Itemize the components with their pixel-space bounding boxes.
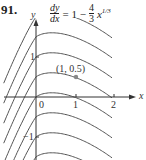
solution-curves [4, 13, 112, 160]
solution-curve [4, 93, 112, 160]
x-axis-label: x [139, 90, 143, 101]
x-tick-label-1: 1 [73, 99, 78, 110]
x-axis-arrow-icon [129, 95, 136, 100]
y-tick-label-minus-1: −1 [23, 131, 34, 142]
y-axis-label: y [31, 9, 35, 20]
point-label: (1, 0.5) [56, 63, 85, 74]
highlighted-point [74, 75, 78, 79]
x-tick-label-2: 2 [111, 99, 116, 110]
y-tick-label-1: 1 [30, 51, 35, 62]
solution-curve [4, 153, 112, 160]
slope-field-plot [0, 0, 146, 160]
x-tick-label-0: 0 [39, 99, 44, 110]
